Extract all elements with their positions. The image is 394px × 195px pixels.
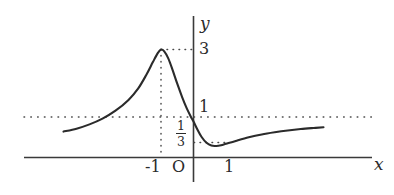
x-tick-label-negative-1: -1 [145, 159, 161, 175]
y-tick-label-3: 3 [199, 41, 209, 57]
y-tick-label-one-third: 1 3 [176, 119, 186, 148]
origin-label: O [172, 159, 185, 175]
fraction-denominator: 3 [176, 135, 186, 148]
fraction-numerator: 1 [176, 119, 186, 132]
x-tick-label-1: 1 [224, 159, 234, 175]
plot-canvas [0, 0, 394, 195]
y-tick-label-1: 1 [199, 99, 209, 115]
x-axis-label: x [374, 156, 384, 173]
y-axis-label: y [200, 15, 210, 32]
graph-figure: x y 3 1 -1 1 O 1 3 [0, 0, 394, 195]
